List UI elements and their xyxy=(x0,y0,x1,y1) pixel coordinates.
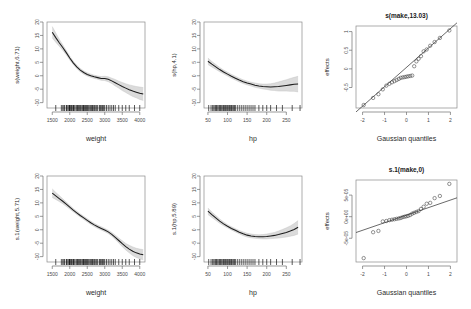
x-tick-label: 50 xyxy=(205,271,211,277)
y-tick-label: -5 xyxy=(34,87,40,92)
y-tick-label: 15 xyxy=(191,186,197,192)
x-axis: 50100150200250 xyxy=(205,266,291,277)
y-axis: -10-505101520 xyxy=(34,173,43,260)
plot-area-panel-weight-bottom: 150020002500300035004000-10-505101520wei… xyxy=(0,154,157,309)
x-tick-label: 2500 xyxy=(82,271,93,277)
x-tick-label: 4000 xyxy=(134,271,145,277)
x-axis-title: weight xyxy=(85,289,106,297)
x-tick-label: 3500 xyxy=(117,271,128,277)
x-axis: 50100150200250 xyxy=(205,112,291,123)
confidence-band-upper xyxy=(52,189,143,250)
x-tick-label: 250 xyxy=(282,117,291,123)
x-tick-label: 2 xyxy=(449,271,452,277)
y-axis: -0.500.51 xyxy=(343,30,352,92)
y-tick-label: -5 xyxy=(191,241,197,246)
x-tick-label: 1 xyxy=(427,271,430,277)
x-tick-label: -2 xyxy=(360,117,365,123)
plot-panel-panel-hp-top: 50100150200250-10-505101520hps(hp,4.1) xyxy=(157,0,314,155)
y-tick-label: 0 xyxy=(34,74,40,77)
y-tick-label: -0.5 xyxy=(343,83,349,92)
x-tick-label: 4000 xyxy=(134,117,145,123)
plot-area-panel-weight-top: 150020002500300035004000-10-505101520wei… xyxy=(0,0,157,155)
plot-panel-panel-hp-bottom: 50100150200250-10-505101520hps.1(hp,5.89… xyxy=(157,154,314,309)
y-tick-label: -5 xyxy=(191,87,197,92)
y-tick-label: 0 xyxy=(34,228,40,231)
y-axis-title: s.1(hp,5.89) xyxy=(171,203,177,235)
y-tick-label: 5e-05 xyxy=(343,188,349,201)
y-tick-label: 0 xyxy=(191,228,197,231)
plot-panel-panel-weight-top: 150020002500300035004000-10-505101520wei… xyxy=(0,0,157,155)
x-tick-label: 150 xyxy=(243,117,252,123)
y-axis-title: s(hp,4.1) xyxy=(171,53,177,77)
y-tick-label: 5 xyxy=(34,215,40,218)
x-axis-title: Gaussian quantiles xyxy=(377,135,437,143)
x-tick-label: 200 xyxy=(263,117,272,123)
y-tick-label: -5 xyxy=(34,241,40,246)
y-tick-label: 10 xyxy=(191,46,197,52)
y-tick-label: 20 xyxy=(34,173,40,179)
x-tick-label: 1500 xyxy=(47,117,58,123)
y-tick-label: 20 xyxy=(191,19,197,25)
x-tick-label: 0 xyxy=(405,117,408,123)
x-axis-title: Gaussian quantiles xyxy=(377,289,437,297)
x-tick-label: 100 xyxy=(223,117,232,123)
y-tick-label: 0.5 xyxy=(343,47,349,54)
y-axis-title: s(weight,6.71) xyxy=(14,46,20,84)
plot-area-panel-qq-make-top: -2-1012-0.500.51Gaussian quantileseffect… xyxy=(314,0,471,155)
plot-area-panel-hp-top: 50100150200250-10-505101520hps(hp,4.1) xyxy=(157,0,314,155)
x-tick-label: 1500 xyxy=(47,271,58,277)
x-tick-label: -2 xyxy=(360,271,365,277)
y-tick-label: -10 xyxy=(34,99,40,106)
y-axis-title: effects xyxy=(324,212,330,230)
figure-canvas: 150020002500300035004000-10-505101520wei… xyxy=(0,0,471,309)
y-tick-label: 5 xyxy=(191,215,197,218)
y-tick-label: -10 xyxy=(191,253,197,260)
x-tick-label: 0 xyxy=(405,271,408,277)
y-axis: -10-505101520 xyxy=(34,19,43,106)
qq-points xyxy=(362,182,451,260)
plot-frame xyxy=(204,22,302,108)
y-tick-label: 15 xyxy=(34,186,40,192)
x-axis: -2-1012 xyxy=(360,266,452,277)
x-tick-label: -1 xyxy=(382,117,387,123)
x-axis-title: weight xyxy=(85,135,106,143)
y-tick-label: 0 xyxy=(191,74,197,77)
x-axis-title: hp xyxy=(249,135,257,143)
x-tick-label: 2000 xyxy=(64,117,75,123)
x-tick-label: 2500 xyxy=(82,117,93,123)
y-tick-label: 0e+00 xyxy=(343,209,349,223)
y-axis: -5e-050e+005e-05 xyxy=(343,188,352,245)
x-tick-label: 3000 xyxy=(99,271,110,277)
panel-title: s.1(make,0) xyxy=(389,166,424,174)
y-tick-label: 0 xyxy=(343,67,349,70)
y-tick-label: 20 xyxy=(34,19,40,25)
plot-area-panel-hp-bottom: 50100150200250-10-505101520hps.1(hp,5.89… xyxy=(157,154,314,309)
y-axis: -10-505101520 xyxy=(191,173,200,260)
y-axis: -10-505101520 xyxy=(191,19,200,106)
x-tick-label: 3000 xyxy=(99,117,110,123)
x-axis: 150020002500300035004000 xyxy=(47,112,146,123)
x-tick-label: 2000 xyxy=(64,271,75,277)
y-tick-label: 10 xyxy=(34,200,40,206)
x-tick-label: 100 xyxy=(223,271,232,277)
y-tick-label: 10 xyxy=(191,200,197,206)
plot-panel-panel-weight-bottom: 150020002500300035004000-10-505101520wei… xyxy=(0,154,157,309)
plot-frame xyxy=(356,180,457,262)
y-tick-label: -5e-05 xyxy=(343,231,349,246)
qq-reference-line xyxy=(356,23,457,112)
y-tick-label: 1 xyxy=(343,30,349,33)
x-tick-label: 200 xyxy=(263,271,272,277)
plot-panel-panel-qq-make-top: -2-1012-0.500.51Gaussian quantileseffect… xyxy=(314,0,471,155)
y-tick-label: 5 xyxy=(34,61,40,64)
panel-title: s(make,13.03) xyxy=(385,12,428,20)
y-tick-label: -10 xyxy=(191,99,197,106)
x-tick-label: 2 xyxy=(449,117,452,123)
plot-area-panel-qq-make-bottom: -2-1012-5e-050e+005e-05Gaussian quantile… xyxy=(314,154,471,309)
x-tick-label: 1 xyxy=(427,117,430,123)
smooth-fit-line xyxy=(52,32,143,94)
y-axis-title: s.1(weight,5.71) xyxy=(14,198,20,241)
x-tick-label: 250 xyxy=(282,271,291,277)
y-tick-label: 20 xyxy=(191,173,197,179)
x-tick-label: -1 xyxy=(382,271,387,277)
x-tick-label: 3500 xyxy=(117,117,128,123)
